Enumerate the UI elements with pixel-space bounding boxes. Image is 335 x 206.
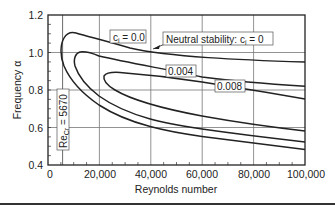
svg-text:0.004: 0.004	[168, 66, 193, 77]
svg-text:20,000: 20,000	[84, 168, 116, 180]
svg-text:80,000: 80,000	[238, 168, 270, 180]
footer-rule	[0, 203, 335, 205]
svg-text:1.0: 1.0	[28, 47, 43, 59]
label-ci-0004: 0.004	[166, 65, 196, 77]
x-tick-labels: 0 20,000 40,000 60,000 80,000 100,000	[47, 168, 325, 180]
y-tick-labels: 0.4 0.6 0.8 1.0 1.2	[28, 9, 43, 171]
svg-text:0.8: 0.8	[28, 84, 43, 96]
svg-text:Neutral stability: ci = 0: Neutral stability: ci = 0	[166, 34, 264, 46]
svg-text:60,000: 60,000	[186, 168, 218, 180]
label-re-critical: ReCr = 5670	[57, 89, 70, 150]
label-ci-0: ci = 0.0	[110, 30, 146, 44]
svg-text:0: 0	[47, 168, 53, 180]
svg-text:40,000: 40,000	[135, 168, 167, 180]
svg-text:1.2: 1.2	[28, 9, 43, 21]
svg-text:0.4: 0.4	[28, 159, 43, 171]
svg-text:100,000: 100,000	[287, 168, 325, 180]
label-ci-0008: 0.008	[215, 80, 245, 92]
svg-text:0.6: 0.6	[28, 122, 43, 134]
x-axis-title: Reynolds number	[135, 183, 218, 195]
y-axis-title: Frequency α	[11, 61, 23, 120]
label-neutral-stability: Neutral stability: ci = 0	[153, 32, 273, 49]
stability-curves	[61, 33, 305, 150]
svg-text:ci = 0.0: ci = 0.0	[113, 32, 145, 44]
svg-text:0.008: 0.008	[217, 81, 242, 92]
stability-chart: 0.4 0.6 0.8 1.0 1.2 0 20,000 40,000 60,0…	[0, 0, 335, 206]
curve-ci-0	[61, 33, 305, 150]
svg-text:ReCr = 5670: ReCr = 5670	[58, 94, 70, 148]
